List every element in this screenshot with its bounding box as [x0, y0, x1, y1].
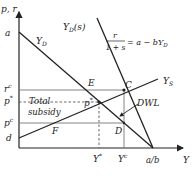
point-pstar: [97, 100, 100, 103]
label-f: F: [51, 126, 59, 136]
equation-rhs: = a − bYD: [127, 38, 168, 48]
dwl-arrow: [120, 104, 138, 116]
point-d: [123, 122, 125, 124]
tick-pstar: p*: [4, 94, 13, 106]
tick-pc: pc: [4, 116, 14, 128]
tick-a: a: [5, 28, 10, 38]
label-yds: YD(s): [63, 22, 86, 33]
label-pstar-point: p*: [84, 96, 93, 108]
label-c: C: [125, 80, 132, 90]
y-axis-label: p, r: [1, 4, 17, 14]
label-e: E: [87, 78, 95, 88]
label-ys: YS: [163, 76, 173, 87]
tick-ab: a/b: [146, 155, 159, 165]
total-subsidy-label-line1: Total: [29, 96, 51, 106]
tick-ystar: Y*: [93, 152, 102, 164]
label-d: D: [114, 126, 122, 136]
label-yd: YD: [36, 36, 47, 47]
dwl-label: DWL: [136, 98, 159, 108]
equation-denominator: 1 + s: [106, 43, 126, 52]
subsidy-diagram: p, r Y a rc p* pc d Y* Yc a/b YD YD(s) Y…: [0, 0, 194, 178]
total-subsidy-label-line2: subsidy: [28, 107, 61, 117]
tick-rc: rc: [4, 82, 12, 94]
x-axis-label: Y: [183, 155, 190, 165]
tick-yc: Yc: [118, 152, 128, 164]
equation-numerator: r: [113, 31, 118, 40]
tick-d: d: [6, 133, 12, 143]
